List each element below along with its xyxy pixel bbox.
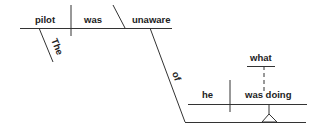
- word-unaware: unaware: [132, 14, 171, 25]
- word-was-doing: was doing: [244, 89, 292, 100]
- word-was: was: [83, 14, 102, 25]
- word-of: of: [170, 70, 184, 83]
- word-what: what: [249, 52, 272, 63]
- sentence-diagram: pilot was unaware The of what he was doi…: [0, 0, 324, 135]
- pedestal-triangle: [262, 114, 277, 122]
- predicate-slant-divider: [113, 5, 125, 28]
- word-pilot: pilot: [35, 14, 56, 25]
- word-the: The: [49, 37, 66, 57]
- word-he: he: [202, 89, 213, 100]
